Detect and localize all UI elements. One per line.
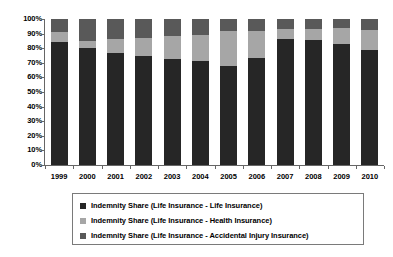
bar-segment — [164, 19, 181, 36]
y-tick-label: 10% — [27, 146, 42, 154]
x-tick-mark — [384, 166, 385, 169]
bar-segment — [333, 28, 350, 44]
bar-column[interactable] — [164, 19, 181, 165]
y-tick-mark — [41, 107, 44, 108]
bar-segment — [277, 19, 294, 29]
bar-column[interactable] — [333, 19, 350, 165]
bar-segment — [164, 36, 181, 59]
bar-segment — [51, 32, 68, 42]
bar-segment — [107, 39, 124, 52]
bar-column[interactable] — [305, 19, 322, 165]
bar-segment — [361, 30, 378, 50]
x-tick-label: 2009 — [333, 172, 350, 182]
bar-segment — [277, 29, 294, 39]
x-tick-mark — [328, 166, 329, 169]
y-tick-mark — [41, 92, 44, 93]
x-tick-mark — [299, 166, 300, 169]
bar-segment — [79, 41, 96, 48]
x-tick-mark — [158, 166, 159, 169]
y-tick-label: 100% — [23, 15, 42, 23]
bar-segment — [135, 19, 152, 38]
legend-item[interactable]: Indemnity Share (Life Insurance - Accide… — [80, 228, 363, 243]
bar-segment — [305, 29, 322, 41]
bar-segment — [333, 19, 350, 28]
bar-segment — [164, 59, 181, 165]
y-tick-label: 70% — [27, 59, 42, 67]
x-tick-label: 1999 — [51, 172, 68, 182]
x-tick-mark — [356, 166, 357, 169]
legend-swatch-icon — [80, 203, 86, 209]
legend-item[interactable]: Indemnity Share (Life Insurance - Life I… — [80, 198, 363, 213]
x-axis: 1999200020012002200320042005200620072008… — [45, 172, 384, 186]
y-tick-label: 50% — [27, 88, 42, 96]
y-tick-label: 30% — [27, 117, 42, 125]
bar-column[interactable] — [51, 19, 68, 165]
x-tick-mark — [102, 166, 103, 169]
bar-column[interactable] — [220, 19, 237, 165]
y-tick-label: 90% — [27, 30, 42, 38]
bar-segment — [51, 19, 68, 32]
y-tick-mark — [41, 150, 44, 151]
legend-label: Indemnity Share (Life Insurance - Accide… — [91, 231, 309, 240]
bar-segment — [220, 66, 237, 165]
bar-segment — [192, 61, 209, 165]
bar-segment — [79, 19, 96, 41]
y-axis: 100%90%80%70%60%50%40%30%20%10%0% — [8, 14, 42, 166]
bars-layer — [45, 19, 384, 165]
stacked-bar-chart: 100%90%80%70%60%50%40%30%20%10%0% 199920… — [0, 0, 393, 257]
bar-segment — [107, 19, 124, 39]
bar-segment — [51, 42, 68, 165]
y-tick-mark — [41, 48, 44, 49]
legend-swatch-icon — [80, 233, 86, 239]
y-tick-label: 60% — [27, 73, 42, 81]
x-tick-mark — [271, 166, 272, 169]
x-tick-label: 2000 — [79, 172, 96, 182]
bar-column[interactable] — [79, 19, 96, 165]
y-tick-mark — [41, 165, 44, 166]
bar-column[interactable] — [192, 19, 209, 165]
x-tick-label: 2010 — [362, 172, 379, 182]
x-tick-mark — [215, 166, 216, 169]
bar-segment — [361, 50, 378, 165]
bar-segment — [220, 31, 237, 66]
bar-column[interactable] — [135, 19, 152, 165]
y-tick-mark — [41, 121, 44, 122]
x-tick-label: 2001 — [107, 172, 124, 182]
x-tick-label: 2008 — [305, 172, 322, 182]
legend-label: Indemnity Share (Life Insurance - Life I… — [91, 201, 262, 210]
bar-segment — [135, 38, 152, 56]
bar-segment — [220, 19, 237, 31]
x-tick-label: 2003 — [164, 172, 181, 182]
bar-segment — [135, 56, 152, 166]
bar-segment — [107, 53, 124, 165]
x-tick-mark — [130, 166, 131, 169]
bar-segment — [192, 35, 209, 61]
legend-item[interactable]: Indemnity Share (Life Insurance - Health… — [80, 213, 363, 228]
bar-segment — [248, 58, 265, 165]
x-tick-label: 2007 — [277, 172, 294, 182]
bar-column[interactable] — [248, 19, 265, 165]
x-tick-mark — [45, 166, 46, 169]
x-tick-label: 2006 — [249, 172, 266, 182]
bar-column[interactable] — [107, 19, 124, 165]
y-tick-mark — [41, 77, 44, 78]
bar-column[interactable] — [277, 19, 294, 165]
bar-segment — [305, 19, 322, 28]
y-tick-mark — [41, 136, 44, 137]
legend-label: Indemnity Share (Life Insurance - Health… — [91, 216, 272, 225]
bar-segment — [248, 31, 265, 57]
chart-legend: Indemnity Share (Life Insurance - Life I… — [72, 193, 364, 245]
bar-segment — [333, 44, 350, 165]
y-tick-mark — [41, 19, 44, 20]
x-tick-mark — [73, 166, 74, 169]
bar-column[interactable] — [361, 19, 378, 165]
y-tick-label: 20% — [27, 132, 42, 140]
plot-area: 100%90%80%70%60%50%40%30%20%10%0% — [0, 14, 393, 172]
y-tick-mark — [41, 63, 44, 64]
y-tick-mark — [41, 34, 44, 35]
bar-segment — [192, 19, 209, 35]
x-tick-mark — [243, 166, 244, 169]
x-tick-label: 2005 — [220, 172, 237, 182]
y-tick-label: 80% — [27, 44, 42, 52]
bar-segment — [248, 19, 265, 31]
